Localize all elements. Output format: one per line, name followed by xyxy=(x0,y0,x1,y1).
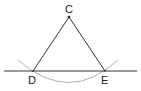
point-d-marker xyxy=(32,70,34,72)
segment-cd xyxy=(33,17,69,71)
point-c-marker xyxy=(68,16,71,19)
point-e-marker xyxy=(104,70,106,72)
label-d: D xyxy=(28,74,36,86)
label-e: E xyxy=(101,74,108,86)
triangle-construction-diagram: C D E xyxy=(0,0,141,91)
label-c: C xyxy=(65,3,73,15)
segment-ce xyxy=(69,17,105,71)
